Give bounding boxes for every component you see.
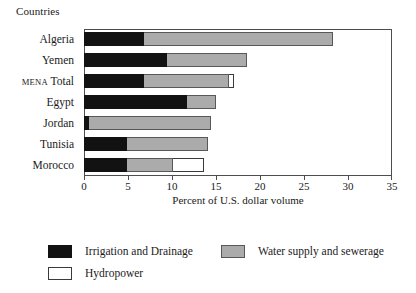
- bar-segment-hydropower: [229, 74, 233, 88]
- bar-segment-irrigation: [84, 95, 187, 109]
- bar-segment-water: [127, 137, 208, 151]
- bar-segment-water: [167, 53, 247, 67]
- y-axis-label-yemen: Yemen: [42, 50, 74, 71]
- bar-row: [84, 155, 392, 176]
- x-tick-label: 10: [167, 180, 178, 192]
- bar-segment-irrigation: [84, 158, 127, 172]
- irrigation-swatch-icon: [48, 245, 72, 258]
- x-tick-label: 0: [81, 180, 87, 192]
- x-tick-label: 20: [255, 180, 266, 192]
- legend-item-water: Water supply and sewerage: [221, 240, 384, 262]
- legend-item-irrigation: Irrigation and Drainage: [48, 240, 193, 262]
- bar-track: [84, 53, 392, 67]
- legend-row-2: Hydropower: [48, 262, 408, 284]
- bar-track: [84, 74, 392, 88]
- water-swatch-icon: [221, 245, 245, 258]
- bar-track: [84, 158, 392, 172]
- y-axis-label-jordan: Jordan: [43, 113, 74, 134]
- bar-row: [84, 29, 392, 50]
- bar-segment-water: [89, 116, 210, 130]
- bar-track: [84, 116, 392, 130]
- y-axis-label-mena-total: MENA Total: [22, 71, 74, 92]
- y-axis-group-title: Countries: [16, 5, 60, 17]
- y-axis-label-algeria: Algeria: [40, 29, 74, 50]
- bar-row: [84, 50, 392, 71]
- hydropower-swatch-icon: [48, 267, 72, 280]
- y-axis-label-morocco: Morocco: [32, 155, 74, 176]
- bar-segment-irrigation: [84, 74, 144, 88]
- bar-segment-irrigation: [84, 53, 167, 67]
- x-tick-label: 5: [125, 180, 131, 192]
- legend-item-hydropower: Hydropower: [48, 262, 143, 284]
- legend-row-1: Irrigation and Drainage Water supply and…: [48, 240, 408, 262]
- bar-row: [84, 71, 392, 92]
- bar-track: [84, 137, 392, 151]
- y-axis-label-tunisia: Tunisia: [40, 134, 74, 155]
- bar-segment-water: [127, 158, 173, 172]
- y-axis-labels: AlgeriaYemenMENA TotalEgyptJordanTunisia…: [0, 29, 80, 176]
- bar-segment-irrigation: [84, 32, 144, 46]
- bar-row: [84, 92, 392, 113]
- y-axis-label-egypt: Egypt: [47, 92, 74, 113]
- x-tick-label: 30: [343, 180, 354, 192]
- x-axis-tick-labels: 05101520253035: [84, 180, 392, 194]
- x-tick-label: 35: [387, 180, 398, 192]
- bar-track: [84, 95, 392, 109]
- bar-segment-irrigation: [84, 137, 127, 151]
- x-axis-title: Percent of U.S. dollar volume: [84, 194, 392, 206]
- bar-segment-water: [187, 95, 216, 109]
- bar-row: [84, 113, 392, 134]
- x-tick-label: 25: [299, 180, 310, 192]
- chart-legend: Irrigation and Drainage Water supply and…: [48, 240, 408, 284]
- bar-series-area: [84, 29, 392, 176]
- bar-row: [84, 134, 392, 155]
- legend-label-irrigation: Irrigation and Drainage: [85, 245, 193, 257]
- bar-segment-water: [144, 32, 333, 46]
- bar-segment-water: [144, 74, 229, 88]
- legend-label-water: Water supply and sewerage: [258, 245, 384, 257]
- label-smallcaps-prefix: MENA: [22, 77, 48, 87]
- bar-segment-hydropower: [173, 158, 204, 172]
- legend-label-hydropower: Hydropower: [85, 267, 143, 279]
- x-tick-label: 15: [211, 180, 222, 192]
- bar-track: [84, 32, 392, 46]
